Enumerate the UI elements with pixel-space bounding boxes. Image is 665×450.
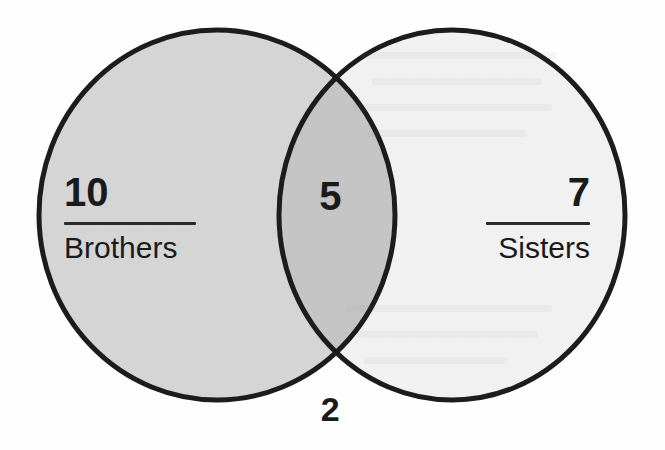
sisters-rule bbox=[486, 222, 590, 225]
outside-count: 2 bbox=[0, 392, 663, 426]
sisters-count: 7 bbox=[470, 172, 590, 216]
brothers-rule bbox=[64, 222, 196, 225]
sisters-set-name: Sisters bbox=[470, 232, 590, 264]
venn-diagram-canvas: 10 Brothers 5 7 Sisters 2 bbox=[0, 0, 665, 450]
brothers-set-name: Brothers bbox=[64, 232, 209, 264]
sisters-label-group: 7 Sisters bbox=[470, 172, 590, 264]
